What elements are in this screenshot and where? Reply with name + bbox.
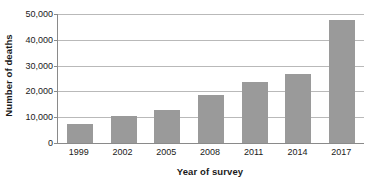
bar — [198, 95, 224, 143]
x-axis-title: Year of survey — [57, 166, 363, 177]
plot-area — [57, 14, 364, 144]
bar-slot — [145, 14, 189, 143]
x-tick-label: 2011 — [244, 147, 263, 157]
bar-slot — [233, 14, 277, 143]
x-tick-label: 1999 — [69, 147, 89, 157]
bar — [285, 74, 311, 143]
bar — [67, 124, 93, 143]
bar-slot — [189, 14, 233, 143]
y-tick-label: 0 — [48, 138, 53, 148]
bar-slot — [320, 14, 364, 143]
x-axis-tick-labels: 1999200220052008201120142017 — [57, 147, 363, 161]
bar-slot — [58, 14, 102, 143]
bar — [154, 110, 180, 143]
bar — [329, 20, 355, 143]
y-axis-tick-labels: 010,00020,00030,00040,00050,000 — [16, 0, 56, 160]
y-tick-label: 20,000 — [25, 86, 53, 96]
y-tick-label: 10,000 — [25, 112, 53, 122]
x-tick-label: 2014 — [287, 147, 307, 157]
y-axis-title-text: Number of deaths — [3, 34, 14, 116]
y-axis-title: Number of deaths — [0, 0, 16, 150]
y-tick-label: 30,000 — [25, 61, 53, 71]
y-tick-label: 50,000 — [25, 9, 53, 19]
bar-chart: Number of deaths 010,00020,00030,00040,0… — [0, 0, 370, 190]
bar — [242, 82, 268, 143]
x-tick-label: 2005 — [156, 147, 176, 157]
y-tick-mark — [54, 143, 58, 144]
x-tick-label: 2017 — [331, 147, 351, 157]
bar-slot — [277, 14, 321, 143]
y-tick-label: 40,000 — [25, 35, 53, 45]
bar-slot — [102, 14, 146, 143]
bar — [111, 116, 137, 143]
bars-group — [58, 14, 364, 143]
x-tick-label: 2008 — [200, 147, 220, 157]
x-tick-label: 2002 — [113, 147, 133, 157]
